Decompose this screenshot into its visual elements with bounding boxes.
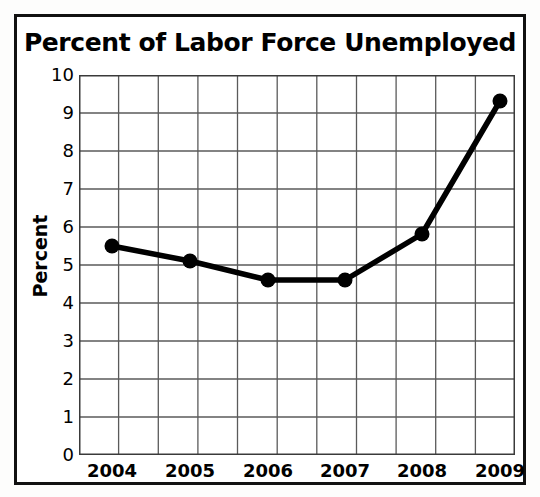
x-tick-2007: 2007 [305,460,385,481]
x-tick-2009: 2009 [460,460,540,481]
x-axis-tick-labels: 2004 2005 2006 2007 2008 2009 [0,0,540,497]
x-tick-2004: 2004 [72,460,152,481]
x-tick-2008: 2008 [382,460,462,481]
chart-figure: Percent of Labor Force Unemployed Percen… [0,0,540,497]
x-tick-2005: 2005 [150,460,230,481]
x-tick-2006: 2006 [228,460,308,481]
